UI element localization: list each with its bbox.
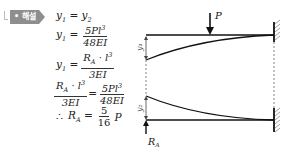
svg-text:P: P — [214, 10, 222, 21]
fixed-support-top-icon — [274, 20, 280, 42]
svg-text:y₂: y₂ — [135, 104, 144, 113]
cantilever-deflection-diagram: P y₁ y₂ RA — [0, 0, 288, 156]
reaction-arrow-icon — [143, 120, 149, 134]
svg-text:y₁: y₁ — [135, 43, 144, 52]
svg-text:RA: RA — [147, 136, 160, 148]
fixed-support-bottom-icon — [274, 108, 280, 132]
load-arrow-icon — [206, 13, 214, 35]
